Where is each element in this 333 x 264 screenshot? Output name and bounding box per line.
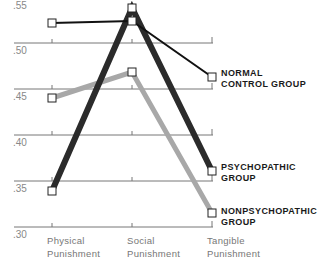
- x-label-line: Punishment: [127, 247, 180, 260]
- data-point-markers: [48, 4, 216, 217]
- legend-line: NORMAL: [221, 68, 306, 79]
- gridlines: [14, 37, 213, 227]
- legend-line: GROUP: [221, 173, 296, 184]
- legend-line: NONPSYCHOPATHIC: [221, 206, 317, 217]
- legend-line: PSYCHOPATHIC: [221, 162, 296, 173]
- x-label-line: Physical: [47, 234, 100, 247]
- x-label-line: Punishment: [47, 247, 100, 260]
- x-label-social: Social Punishment: [127, 234, 180, 260]
- legend-psychopathic-group: PSYCHOPATHIC GROUP: [221, 162, 296, 184]
- y-tick-label: .50: [13, 45, 27, 56]
- y-tick-label: .40: [13, 137, 27, 148]
- x-label-tangible: Tangible Punishment: [207, 234, 260, 260]
- y-tick-label: .30: [13, 229, 27, 240]
- x-label-line: Tangible: [207, 234, 260, 247]
- y-tick-label: .55: [13, 0, 27, 11]
- x-label-line: Social: [127, 234, 180, 247]
- x-label-physical: Physical Punishment: [47, 234, 100, 260]
- series-psychopathic-line: [52, 8, 212, 191]
- legend-nonpsychopathic-group: NONPSYCHOPATHIC GROUP: [221, 206, 317, 228]
- y-tick-label: .45: [13, 91, 27, 102]
- legend-normal-control-group: NORMAL CONTROL GROUP: [221, 68, 306, 90]
- legend-line: CONTROL GROUP: [221, 79, 306, 90]
- legend-line: GROUP: [221, 217, 317, 228]
- y-tick-label: .35: [13, 183, 27, 194]
- x-label-line: Punishment: [207, 247, 260, 260]
